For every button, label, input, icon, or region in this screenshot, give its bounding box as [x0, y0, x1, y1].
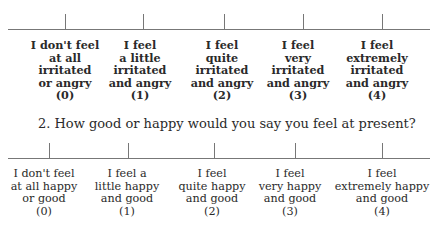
option-value: (4)	[346, 89, 409, 102]
scale-option-4: I feel extremely happy and good (4)	[335, 168, 430, 218]
option-line: and good	[259, 193, 322, 206]
option-value: (2)	[178, 206, 245, 219]
option-line: I don't feel	[11, 168, 78, 181]
option-value: (3)	[259, 206, 322, 219]
scale-tick	[49, 143, 50, 158]
option-value: (3)	[267, 89, 330, 102]
option-value: (2)	[191, 89, 254, 102]
option-line: irritated	[346, 64, 409, 77]
scale-option-0: I don't feel at all irritated or angry (…	[31, 39, 99, 102]
scale-tick	[65, 14, 66, 29]
option-value: (0)	[11, 206, 78, 219]
option-line: irritated	[31, 64, 99, 77]
scale-tick	[128, 143, 129, 158]
option-value: (1)	[95, 206, 159, 219]
option-line: I feel	[178, 168, 245, 181]
scale-tick	[382, 143, 383, 158]
option-line: I feel	[109, 39, 172, 52]
option-value: (1)	[109, 89, 172, 102]
scale-tick	[382, 14, 383, 29]
option-line: I feel	[267, 39, 330, 52]
option-line: and good	[95, 193, 159, 206]
option-line: I feel	[335, 168, 430, 181]
scale-tick	[214, 143, 215, 158]
option-line: I feel	[191, 39, 254, 52]
option-line: and good	[178, 193, 245, 206]
scale-tick	[143, 14, 144, 29]
scale-line	[8, 29, 430, 30]
option-line: irritated	[109, 64, 172, 77]
scale-tick	[224, 14, 225, 29]
scale-option-2: I feel quite happy and good (2)	[178, 168, 245, 218]
option-line: and good	[335, 193, 430, 206]
scale-option-3: I feel very happy and good (3)	[259, 168, 322, 218]
scale-option-1: I feel a little irritated and angry (1)	[109, 39, 172, 102]
scale-tick	[295, 143, 296, 158]
option-line: I don't feel	[31, 39, 99, 52]
option-line: or good	[11, 193, 78, 206]
scale-line	[8, 158, 430, 159]
option-line: I feel a	[95, 168, 159, 181]
option-line: irritated	[191, 64, 254, 77]
option-line: I feel	[259, 168, 322, 181]
option-line: irritated	[267, 64, 330, 77]
option-line: I feel	[346, 39, 409, 52]
scale-option-0: I don't feel at all happy or good (0)	[11, 168, 78, 218]
option-value: (4)	[335, 206, 430, 219]
scale-tick	[303, 14, 304, 29]
scale-option-1: I feel a little happy and good (1)	[95, 168, 159, 218]
scale-option-2: I feel quite irritated and angry (2)	[191, 39, 254, 102]
scale-option-3: I feel very irritated and angry (3)	[267, 39, 330, 102]
option-value: (0)	[31, 89, 99, 102]
question-2: 2. How good or happy would you say you f…	[38, 116, 416, 131]
scale-option-4: I feel extremely irritated and angry (4)	[346, 39, 409, 102]
